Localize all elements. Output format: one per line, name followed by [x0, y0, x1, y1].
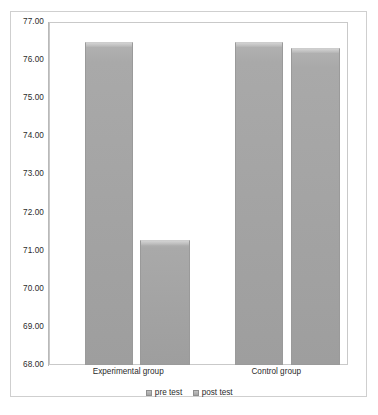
chart-container: 77.0076.0075.0074.0073.0072.0071.0070.00… [10, 11, 367, 397]
bar-post-test-experimental-group[interactable] [140, 240, 190, 365]
chart-legend: pre testpost test [11, 389, 368, 397]
x-axis-category-label: Experimental group [93, 368, 164, 376]
y-axis-tick-labels: 77.0076.0075.0074.0073.0072.0071.0070.00… [11, 12, 47, 398]
bar-post-test-control-group[interactable] [291, 48, 340, 365]
legend-item-pre-test[interactable]: pre test [146, 389, 182, 397]
y-axis-tick-label: 73.00 [23, 170, 44, 178]
y-axis-tick-label: 68.00 [23, 361, 44, 369]
legend-swatch-icon [193, 390, 199, 396]
y-axis-tick-label: 77.00 [23, 18, 44, 26]
y-axis-tick-label: 74.00 [23, 132, 44, 140]
y-axis-tick-label: 70.00 [23, 285, 44, 293]
chart-plot-wrapper: 77.0076.0075.0074.0073.0072.0071.0070.00… [11, 12, 366, 396]
legend-label: pre test [155, 389, 182, 397]
bar-pre-test-control-group[interactable] [235, 42, 284, 365]
legend-label: post test [202, 389, 233, 397]
y-axis-tick-label: 76.00 [23, 56, 44, 64]
y-axis-tick-label: 71.00 [23, 247, 44, 255]
bar-pre-test-experimental-group[interactable] [85, 42, 134, 365]
legend-swatch-icon [146, 390, 152, 396]
y-axis-tick-label: 72.00 [23, 209, 44, 217]
x-axis-category-labels: Experimental groupControl group [49, 368, 348, 384]
legend-item-post-test[interactable]: post test [193, 389, 232, 397]
x-axis-category-label: Control group [251, 368, 301, 376]
y-axis-tick-label: 75.00 [23, 94, 44, 102]
y-axis-tick-label: 69.00 [23, 323, 44, 331]
plot-area [49, 22, 348, 365]
